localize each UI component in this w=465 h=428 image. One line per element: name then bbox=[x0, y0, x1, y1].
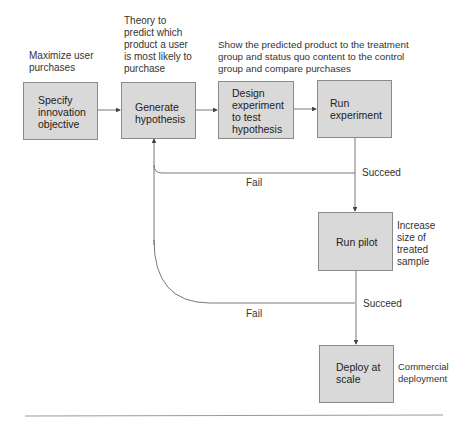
edge-label-fail-1: Fail bbox=[246, 177, 262, 188]
box-run-experiment: Run experiment bbox=[317, 80, 392, 138]
box-label: Run pilot bbox=[336, 236, 377, 248]
box-label: Run experiment bbox=[330, 97, 382, 121]
box-run-pilot: Run pilot bbox=[318, 212, 393, 271]
annotation-deploy: Commercial deployment bbox=[398, 361, 449, 385]
box-specify-objective: Specify innovation objective bbox=[23, 82, 98, 140]
box-design-experiment: Design experiment to test hypothesis bbox=[218, 81, 294, 139]
annotation-run-pilot: Increase size of treated sample bbox=[397, 220, 435, 268]
box-label: Design experiment to test hypothesis bbox=[232, 87, 284, 135]
annotation-design: Show the predicted product to the treatm… bbox=[218, 39, 409, 75]
box-label: Deploy at scale bbox=[336, 361, 380, 385]
box-generate-hypothesis: Generate hypothesis bbox=[121, 82, 196, 139]
box-label: Generate hypothesis bbox=[135, 101, 185, 125]
annotation-generate: Theory to predict which product a user i… bbox=[124, 15, 192, 75]
edge-label-succeed-1: Succeed bbox=[362, 167, 401, 178]
edge-label-succeed-2: Succeed bbox=[363, 298, 402, 309]
edge-label-fail-2: Fail bbox=[246, 308, 262, 319]
box-deploy-at-scale: Deploy at scale bbox=[319, 345, 394, 403]
annotation-specify: Maximize user purchases bbox=[29, 50, 93, 74]
box-label: Specify innovation objective bbox=[38, 94, 86, 130]
